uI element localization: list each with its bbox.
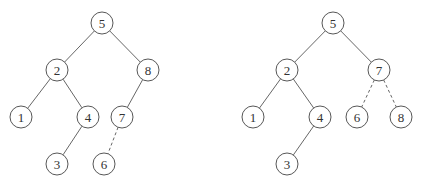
binary-tree-rotation-diagram: 52814736 52714683 [0,0,423,189]
node-label: 6 [354,110,361,125]
tree-node-5: 5 [91,12,113,34]
node-label: 5 [330,16,337,31]
tree-node-7: 7 [368,59,390,81]
edge-7-6 [108,127,118,153]
edge-2-4 [63,79,82,108]
node-label: 4 [317,110,324,125]
edge-7-6 [362,80,375,107]
edge-4-3 [63,126,82,155]
node-label: 3 [54,157,61,172]
node-label: 3 [284,157,291,172]
edge-4-3 [293,126,313,155]
node-label: 8 [398,110,405,125]
tree-before-rotation: 52814736 [10,12,159,175]
edge-5-7 [341,31,372,62]
node-label: 7 [376,63,383,78]
tree-node-4: 4 [77,106,99,128]
tree-node-5: 5 [322,12,344,34]
tree-node-2: 2 [46,59,68,81]
node-label: 4 [85,110,92,125]
tree-node-2: 2 [276,59,298,81]
edge-2-1 [28,79,51,109]
edge-5-2 [295,31,326,62]
tree-node-3: 3 [46,153,68,175]
tree-node-8: 8 [390,106,412,128]
tree-after-rotation: 52714683 [242,12,412,175]
tree-node-8: 8 [137,59,159,81]
tree-node-1: 1 [10,106,32,128]
edge-2-1 [259,79,280,108]
edge-7-8 [384,80,397,107]
tree-node-3: 3 [276,153,298,175]
node-label: 2 [54,63,61,78]
edge-8-7 [127,80,142,108]
node-label: 1 [18,110,25,125]
tree-node-7: 7 [111,106,133,128]
node-label: 1 [250,110,257,125]
node-label: 2 [284,63,291,78]
edge-5-8 [110,31,141,62]
tree-node-6: 6 [93,153,115,175]
node-label: 5 [99,16,106,31]
tree-node-4: 4 [309,106,331,128]
node-label: 7 [119,110,126,125]
edge-2-4 [293,79,313,108]
tree-node-6: 6 [346,106,368,128]
node-label: 6 [101,157,108,172]
edge-5-2 [65,31,95,62]
node-label: 8 [145,63,152,78]
tree-node-1: 1 [242,106,264,128]
